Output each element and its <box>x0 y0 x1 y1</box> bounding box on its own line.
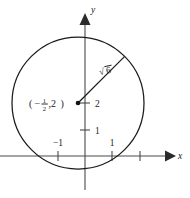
center-label-fraction-denominator: 2 <box>43 105 46 112</box>
y-axis-group <box>80 13 91 190</box>
x-axis-label: x <box>177 151 183 161</box>
y-tick-label-2: 2 <box>95 99 100 109</box>
circle-graph-figure: x y −1 1 1 2 ( − 1 2 ,2 ) √ 6 <box>0 0 190 198</box>
center-label-close-paren: ) <box>61 98 64 110</box>
x-axis-group <box>0 151 176 162</box>
y-tick-label-1: 1 <box>95 126 100 136</box>
center-label-minus-sign: − <box>35 98 41 109</box>
x-tick-label-1: 1 <box>110 138 115 148</box>
center-label-open-paren: ( <box>29 98 33 110</box>
center-point-marker <box>76 101 81 106</box>
x-axis-arrow-icon <box>165 151 176 162</box>
x-tick-label-minus-1: −1 <box>53 138 63 148</box>
center-label-second-coordinate: ,2 <box>49 98 57 109</box>
y-axis-label: y <box>90 5 96 15</box>
center-label-fraction-numerator: 1 <box>43 97 46 104</box>
coordinate-plane-svg: x y −1 1 1 2 ( − 1 2 ,2 ) √ 6 <box>0 0 190 198</box>
y-axis-arrow-icon <box>80 13 91 25</box>
center-coordinate-label: ( − 1 2 ,2 ) <box>29 97 64 112</box>
